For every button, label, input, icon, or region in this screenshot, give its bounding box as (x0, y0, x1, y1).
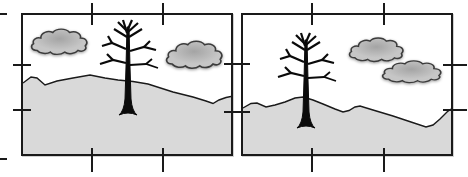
cloud-lower-right (383, 61, 441, 83)
left-landscape-scene (23, 15, 231, 154)
registration-tick-mark (13, 109, 31, 111)
left-panel-frame (21, 13, 233, 156)
cloud-upper-left (32, 29, 87, 54)
hills-foreground (243, 97, 451, 154)
registration-tick-mark (91, 3, 93, 25)
registration-tick-mark (13, 64, 31, 66)
registration-tick-mark (162, 148, 164, 172)
registration-tick-mark (91, 148, 93, 172)
registration-tick-mark (443, 64, 467, 66)
right-landscape-scene (243, 15, 451, 154)
registration-tick-mark (0, 158, 7, 160)
comparison-figure (0, 0, 468, 177)
registration-tick-mark (383, 148, 385, 172)
registration-tick-mark (311, 3, 313, 25)
registration-tick-mark (383, 3, 385, 25)
registration-tick-mark (224, 63, 250, 65)
cloud-upper-right (350, 38, 403, 61)
registration-tick-mark (311, 148, 313, 172)
right-panel-frame (241, 13, 453, 156)
registration-tick-mark (0, 13, 7, 15)
registration-tick-mark (224, 111, 250, 113)
cloud-middle-right (167, 41, 222, 68)
registration-tick-mark (162, 3, 164, 25)
registration-tick-mark (443, 109, 467, 111)
